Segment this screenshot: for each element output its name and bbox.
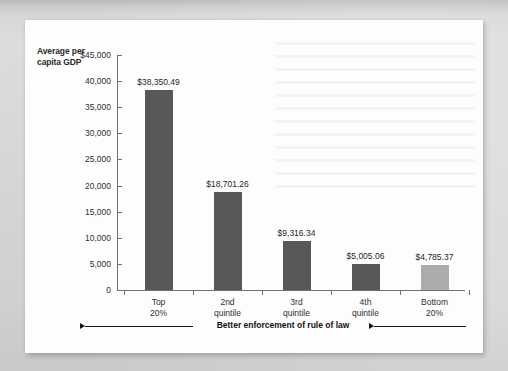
y-axis-line xyxy=(117,55,118,290)
category-label-line: 3rd xyxy=(257,297,337,308)
category-label-line: 20% xyxy=(395,308,475,319)
y-axis-tick xyxy=(117,212,122,213)
bar-value-label: $18,701.26 xyxy=(188,179,268,189)
y-axis-tick xyxy=(117,107,122,108)
y-axis-tick-label: 30,000 xyxy=(45,128,111,138)
axis-direction-annotation: Better enforcement of rule of law xyxy=(25,320,483,334)
bar-chart: Average per capita GDP $45,00040,00035,0… xyxy=(25,20,483,353)
y-axis-tick xyxy=(117,238,122,239)
bar xyxy=(421,265,449,290)
y-axis-tick xyxy=(117,159,122,160)
y-axis-tick-label: 15,000 xyxy=(45,207,111,217)
annotation-label: Better enforcement of rule of law xyxy=(203,320,363,330)
x-axis-tick xyxy=(193,290,194,295)
category-label-line: 4th xyxy=(326,297,406,308)
x-axis-tick xyxy=(331,290,332,295)
y-axis-tick-label: 0 xyxy=(45,285,111,295)
x-axis-line xyxy=(117,290,465,291)
x-axis-category-label: Top20% xyxy=(119,297,199,318)
figure-card: Average per capita GDP $45,00040,00035,0… xyxy=(25,20,483,353)
category-label-line: quintile xyxy=(188,308,268,319)
y-axis-tick xyxy=(117,186,122,187)
category-label-line: 2nd xyxy=(188,297,268,308)
x-axis-tick xyxy=(124,290,125,295)
category-label-line: Bottom xyxy=(395,297,475,308)
x-axis-category-label: 2ndquintile xyxy=(188,297,268,318)
bar-value-label: $9,316.34 xyxy=(257,228,337,238)
bar-value-label: $38,350.49 xyxy=(119,77,199,87)
bar-value-label: $4,785.37 xyxy=(395,252,475,262)
y-axis-tick xyxy=(117,55,122,56)
x-axis-tick xyxy=(262,290,263,295)
x-axis-tick xyxy=(400,290,401,295)
y-axis-tick xyxy=(117,264,122,265)
category-label-line: 20% xyxy=(119,308,199,319)
x-axis-tick xyxy=(469,290,470,295)
annotation-arrowhead-left xyxy=(80,323,85,329)
bar xyxy=(214,192,242,290)
y-axis-tick-label: 10,000 xyxy=(45,233,111,243)
x-axis-category-label: 3rdquintile xyxy=(257,297,337,318)
bar xyxy=(283,241,311,290)
x-axis-category-label: Bottom20% xyxy=(395,297,475,318)
y-axis-tick-label: 20,000 xyxy=(45,181,111,191)
y-axis-tick-label: $45,000 xyxy=(45,50,111,60)
x-axis-category-label: 4thquintile xyxy=(326,297,406,318)
category-label-line: Top xyxy=(119,297,199,308)
bar-value-label: $5,005.06 xyxy=(326,251,406,261)
bar xyxy=(145,90,173,290)
y-axis-tick-label: 25,000 xyxy=(45,154,111,164)
y-axis-tick-label: 40,000 xyxy=(45,76,111,86)
category-label-line: quintile xyxy=(257,308,337,319)
bar xyxy=(352,264,380,290)
annotation-line-right xyxy=(374,326,466,327)
category-label-line: quintile xyxy=(326,308,406,319)
y-axis-tick xyxy=(117,133,122,134)
y-axis-tick xyxy=(117,290,122,291)
annotation-line-left xyxy=(85,326,193,327)
y-axis-tick-label: 35,000 xyxy=(45,102,111,112)
y-axis-tick-label: 5,000 xyxy=(45,259,111,269)
